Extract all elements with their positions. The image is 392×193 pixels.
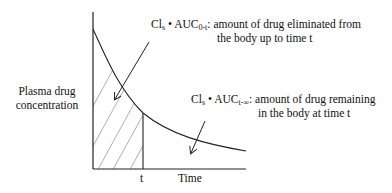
bullet-operator: • [168,18,172,30]
time-t-label: t [140,172,143,185]
annotation-remaining-line2: in the body at time t [258,107,350,120]
clearance-subscript: s [202,98,205,107]
arrow-eliminated-icon [115,42,149,99]
y-axis-label-line2: concentration [4,98,90,112]
annotation-eliminated-line2: the body up to time t [217,32,313,45]
y-axis-label-line1: Plasma drug [4,84,90,98]
clearance-symbol: Cl [191,93,202,105]
y-axis-label: Plasma drug concentration [4,84,90,112]
clearance-subscript: s [162,23,165,32]
concentration-curve [93,29,246,151]
auc-subscript: 0-t [198,23,207,32]
arrow-remaining-icon [191,121,205,153]
annotation-text: : amount of drug eliminated from [207,18,361,30]
x-axis-label: Time [178,172,202,185]
auc-symbol: AUC [214,93,238,105]
auc-subscript: t-∞ [238,98,249,107]
pk-auc-diagram: Plasma drug concentration t Time Cls • A… [0,0,392,193]
auc-symbol: AUC [174,18,198,30]
clearance-symbol: Cl [151,18,162,30]
annotation-text: : amount of drug remaining [249,93,375,105]
bullet-operator: • [208,93,212,105]
